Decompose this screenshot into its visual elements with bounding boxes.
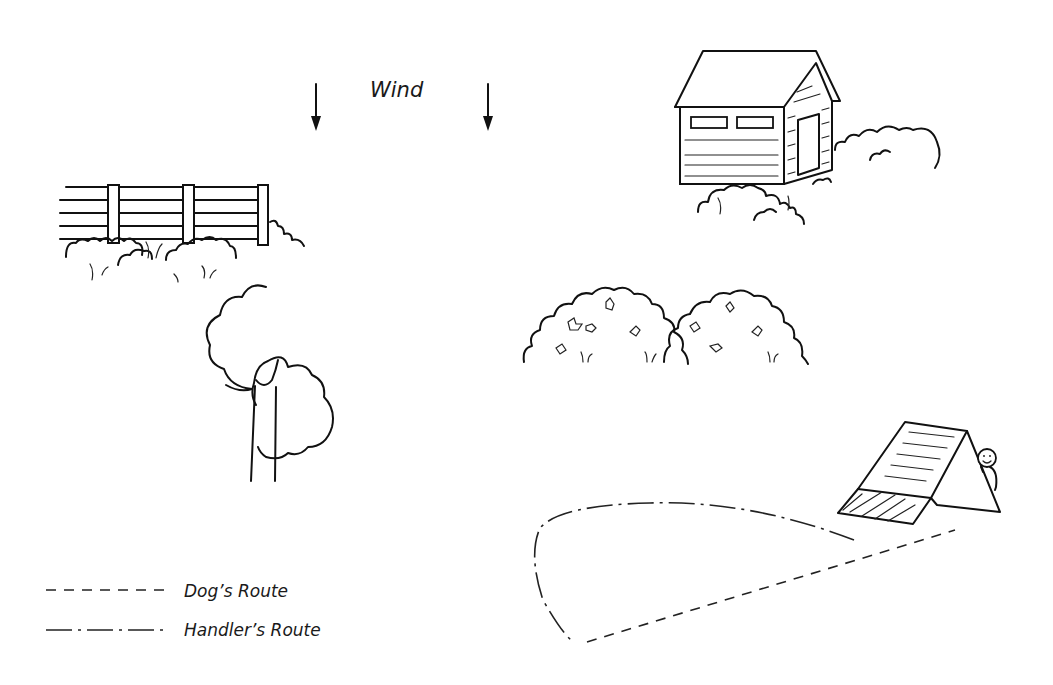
tree-icon: [207, 285, 333, 481]
legend-dog-route-label: Dog’s Route: [184, 581, 288, 601]
wind-arrow-left-icon: [311, 84, 321, 131]
scene-illustration: [0, 0, 1053, 685]
bush-left-icon: [524, 288, 688, 364]
fence-icon: [60, 185, 304, 282]
legend-handler-route-label: Handler’s Route: [184, 620, 321, 640]
dog-route-line: [587, 530, 955, 642]
handler-route-line: [535, 503, 854, 640]
a-frame-icon: [838, 422, 1000, 524]
shed-icon: [675, 51, 940, 224]
handler-person-icon: [978, 449, 996, 490]
wind-label: Wind: [370, 78, 423, 102]
wind-arrow-right-icon: [483, 84, 493, 131]
